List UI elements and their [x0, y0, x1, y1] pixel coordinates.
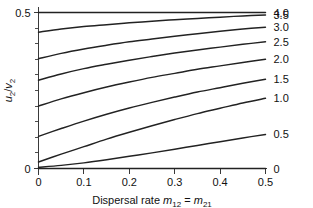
curve-end-label: 2.5 [274, 36, 289, 48]
curve-end-label: 3.0 [274, 21, 289, 33]
x-tick-label: 0.1 [76, 176, 91, 188]
curve-end-label: 0.5 [274, 128, 289, 140]
y-tick-label: 0.5 [15, 7, 30, 19]
x-tick-label: 0.4 [212, 176, 227, 188]
line-chart-canvas: 00.5 00.10.20.30.40.5 4.03.53.02.52.01.5… [0, 0, 313, 208]
curve-end-label: 3.5 [274, 9, 289, 21]
x-tick-label: 0.5 [258, 176, 273, 188]
x-tick-label: 0.3 [167, 176, 182, 188]
chart-figure: 00.5 00.10.20.30.40.5 4.03.53.02.52.01.5… [0, 0, 313, 208]
curve-end-label: 1.0 [274, 92, 289, 104]
x-tick-label: 0.2 [122, 176, 137, 188]
y-tick-label: 0 [24, 163, 30, 175]
curve-end-label: 0 [274, 163, 280, 175]
curve-end-label: 1.5 [274, 73, 289, 85]
curve-end-label: 2.0 [274, 53, 289, 65]
x-tick-label: 0 [35, 176, 41, 188]
